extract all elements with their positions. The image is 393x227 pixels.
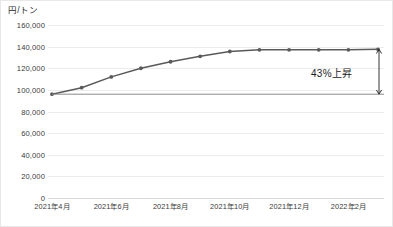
x-axis-tick-label: 2021年6月	[94, 200, 129, 211]
plot-area	[48, 25, 384, 198]
data-point-marker	[109, 75, 113, 79]
data-point-marker	[228, 50, 232, 54]
data-point-marker	[80, 86, 84, 90]
data-point-marker	[258, 48, 262, 52]
annotation-43-percent-increase: 43%上昇	[311, 65, 353, 80]
data-point-marker	[287, 48, 291, 52]
x-axis-tick-label: 2021年4月	[34, 200, 69, 211]
chart-container: 円/トン 160,000140,000120,000100,00080,0006…	[0, 0, 393, 227]
data-point-marker	[139, 66, 143, 70]
y-axis-tick-label: 20,000	[3, 172, 45, 181]
x-axis-tick-label: 2021年12月	[269, 200, 308, 211]
data-point-marker	[198, 54, 202, 58]
x-axis-tick-label: 2022年2月	[331, 200, 366, 211]
y-axis-tick-labels: 160,000140,000120,000100,00080,00060,000…	[1, 25, 45, 198]
y-axis-tick-label: 60,000	[3, 129, 45, 138]
data-point-marker	[317, 48, 321, 52]
x-axis-line	[48, 198, 384, 199]
series-line-chart	[48, 25, 384, 198]
y-axis-tick-label: 80,000	[3, 107, 45, 116]
data-point-marker	[346, 48, 350, 52]
y-axis-title: 円/トン	[8, 3, 38, 15]
x-axis-tick-labels: 2021年4月2021年6月2021年8月2021年10月2021年12月202…	[48, 200, 384, 214]
data-point-marker	[169, 60, 173, 64]
y-axis-tick-label: 100,000	[3, 85, 45, 94]
y-axis-tick-label: 40,000	[3, 150, 45, 159]
y-axis-tick-label: 120,000	[3, 64, 45, 73]
x-axis-tick-label: 2021年10月	[210, 200, 249, 211]
y-axis-tick-label: 140,000	[3, 42, 45, 51]
y-axis-tick-label: 160,000	[3, 21, 45, 30]
x-axis-tick-label: 2021年8月	[153, 200, 188, 211]
